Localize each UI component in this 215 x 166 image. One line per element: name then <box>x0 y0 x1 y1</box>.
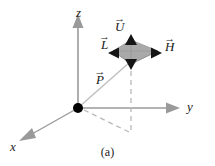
arrowhead-U <box>125 34 137 45</box>
axis-y <box>78 103 180 114</box>
vector-label-U: → U <box>115 20 124 33</box>
vector-accent-H: → <box>164 33 175 44</box>
vector-accent-L: → <box>99 31 110 42</box>
arrowhead-L <box>108 48 119 59</box>
axis-z <box>73 14 84 108</box>
origin-marker <box>73 103 83 113</box>
axis-x <box>19 108 78 141</box>
figure-caption: (a) <box>0 145 215 160</box>
axis-label-z: z <box>76 6 81 19</box>
axis-label-y: y <box>187 100 193 113</box>
vector-label-P: → P <box>96 73 104 86</box>
vector-accent-U: → <box>114 13 125 24</box>
diagram-canvas <box>0 0 215 166</box>
figure-container: z y x → U → L → H → P (a) <box>0 0 215 166</box>
projection-lines <box>84 62 131 133</box>
vector-accent-P: → <box>94 66 105 77</box>
arrowhead-H <box>151 48 162 59</box>
vector-label-L: → L <box>101 38 108 51</box>
vector-label-H: → H <box>165 40 174 53</box>
